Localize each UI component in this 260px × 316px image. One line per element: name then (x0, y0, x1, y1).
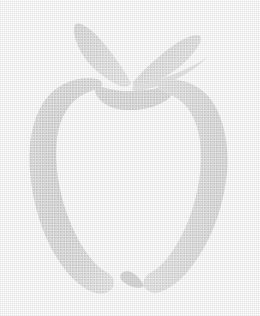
apple-outline-graphic (0, 0, 260, 316)
image-canvas (0, 0, 260, 316)
